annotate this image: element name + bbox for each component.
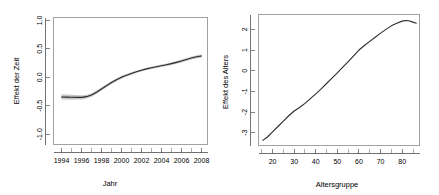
x-tick-label: 70 (377, 158, 385, 165)
y-axis-ticks: -3-2-1012 (241, 27, 255, 135)
smooth-curve (263, 20, 416, 140)
x-tick-label: 2006 (174, 157, 190, 164)
age-effect-plot: -3-2-1012 20304050607080 Altersgruppe Ef… (219, 0, 439, 195)
y-axis-title: Effekt der Zeit (12, 57, 21, 104)
x-tick-label: 2004 (154, 157, 170, 164)
y-axis-ticks: -1.0-0.50.00.51.0 (36, 15, 50, 140)
y-tick-label: 0 (241, 69, 248, 73)
x-tick-label: 20 (269, 158, 277, 165)
y-tick-label: -1.0 (36, 128, 43, 140)
x-tick-label: 2008 (194, 157, 210, 164)
x-tick-label: 1998 (94, 157, 110, 164)
x-axis-ticks: 19941996199820002002200420062008 (54, 148, 210, 164)
plot-frame (54, 18, 208, 145)
x-tick-label: 40 (312, 158, 320, 165)
y-tick-label: 2 (241, 27, 248, 31)
y-tick-label: 1 (241, 48, 248, 52)
x-tick-label: 2000 (114, 157, 130, 164)
gam-smooth-effects-figure: -1.0-0.50.00.51.0 1994199619982000200220… (0, 0, 439, 195)
x-tick-label: 1996 (74, 157, 90, 164)
y-axis-title: Effekt des Alters (221, 55, 230, 109)
y-tick-label: -1 (241, 88, 248, 94)
y-tick-label: 0.5 (36, 44, 43, 54)
x-axis-ticks: 20304050607080 (262, 149, 413, 165)
y-tick-label: -2 (241, 109, 248, 115)
y-tick-label: 0.0 (36, 72, 43, 82)
time-effect-plot: -1.0-0.50.00.51.0 1994199619982000200220… (0, 0, 219, 195)
chart-panel-time-effect: -1.0-0.50.00.51.0 1994199619982000200220… (0, 0, 219, 195)
x-tick-label: 1994 (54, 157, 70, 164)
x-tick-label: 30 (290, 158, 298, 165)
y-tick-label: -3 (241, 129, 248, 135)
x-axis-title: Jahr (103, 179, 118, 188)
x-axis-title: Altersgruppe (316, 180, 359, 189)
y-tick-label: -0.5 (36, 100, 43, 112)
x-tick-label: 60 (355, 158, 363, 165)
plot-frame (259, 15, 420, 146)
x-tick-label: 2002 (134, 157, 150, 164)
x-tick-label: 50 (333, 158, 341, 165)
chart-panel-age-effect: -3-2-1012 20304050607080 Altersgruppe Ef… (219, 0, 438, 195)
x-tick-label: 80 (398, 158, 406, 165)
y-tick-label: 1.0 (36, 15, 43, 25)
